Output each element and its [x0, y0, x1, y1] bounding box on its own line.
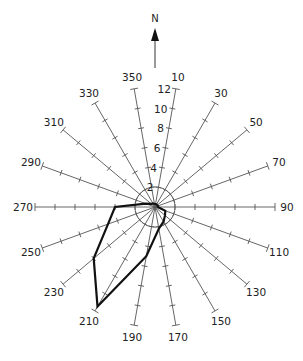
rose-diagram: N 24681012 10305070901101301501701902102…: [0, 0, 303, 361]
direction-axes: [35, 88, 275, 326]
direction-label-250: 250: [21, 246, 41, 258]
direction-label-310: 310: [44, 116, 64, 128]
axis-70: [155, 162, 269, 207]
direction-label-290: 290: [21, 156, 41, 168]
axis-50: [155, 127, 249, 207]
frequency-polygon: [94, 204, 166, 307]
scale-label: 8: [157, 122, 164, 134]
axis-110: [155, 207, 269, 252]
scale-label: 6: [154, 142, 161, 154]
direction-label-230: 230: [44, 286, 64, 298]
direction-label-170: 170: [168, 331, 188, 343]
direction-label-190: 190: [122, 331, 142, 343]
north-label: N: [151, 13, 158, 24]
scale-label: 2: [147, 181, 154, 193]
direction-label-90: 90: [280, 201, 293, 213]
direction-label-110: 110: [269, 246, 289, 258]
scale-label: 10: [154, 103, 167, 115]
axis-290: [41, 162, 155, 207]
direction-label-70: 70: [272, 156, 285, 168]
scale-label: 4: [150, 162, 157, 174]
direction-label-130: 130: [246, 286, 266, 298]
direction-label-10: 10: [171, 71, 184, 83]
direction-label-30: 30: [214, 87, 227, 99]
direction-label-210: 210: [79, 315, 99, 327]
data-polygon: [94, 204, 166, 307]
axis-310: [61, 127, 155, 207]
axis-230: [61, 207, 155, 287]
direction-label-50: 50: [249, 116, 262, 128]
direction-label-270: 270: [13, 201, 33, 213]
direction-label-330: 330: [79, 87, 99, 99]
scale-label: 12: [157, 83, 170, 95]
direction-label-150: 150: [211, 315, 231, 327]
axis-130: [155, 207, 249, 287]
north-arrow-icon: [151, 28, 159, 68]
axis-90: [155, 203, 275, 211]
direction-label-350: 350: [122, 71, 142, 83]
axis-250: [41, 207, 155, 252]
